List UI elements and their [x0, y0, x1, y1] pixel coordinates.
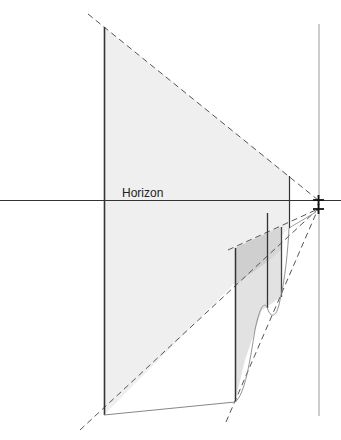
- vanishing-point-marker: [313, 195, 324, 205]
- horizon-label: Horizon: [122, 187, 163, 199]
- diagram-canvas: [0, 0, 341, 440]
- floor-line: [104, 402, 235, 415]
- upper-plane-fill: [104, 27, 289, 200]
